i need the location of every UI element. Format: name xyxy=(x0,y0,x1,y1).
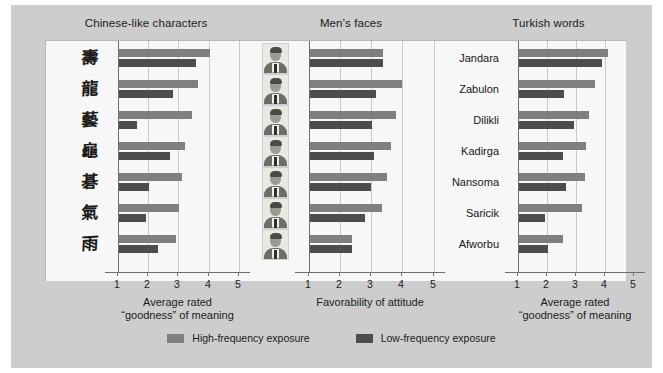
figure-panel: Chinese-like characters Men’s faces Turk… xyxy=(11,5,652,368)
x-tick-label-mens-faces-3: 3 xyxy=(360,278,380,290)
x-tick-label-chinese-characters-2: 2 xyxy=(137,278,157,290)
x-tick-label-mens-faces-4: 4 xyxy=(391,278,411,290)
x-tick-label-turkish-words-4: 4 xyxy=(594,278,614,290)
category-label-mens-faces-face-1 xyxy=(251,44,296,72)
bar-turkish-words-Afworbu-lo xyxy=(519,245,548,253)
turkish-word-label-afworbu: Afworbu xyxy=(459,238,506,250)
turkish-word-label-dilikli: Dilikli xyxy=(473,114,506,126)
bar-chinese-characters-char-2-hi xyxy=(119,80,198,88)
x-tick-turkish-words-1 xyxy=(517,272,518,276)
face-thumbnail-7 xyxy=(262,229,289,260)
category-labels-chinese-characters: 壽龍藝龜碁氣雨 xyxy=(46,41,106,281)
chart-panel-turkish-words: JandaraZabulonDilikliKadirgaNansomaSaric… xyxy=(446,41,646,281)
category-label-chinese-characters-char-4: 龜 xyxy=(46,137,106,165)
x-tick-mens-faces-3 xyxy=(370,272,371,276)
bar-chinese-characters-char-3-lo xyxy=(119,121,137,129)
x-axis-title-turkish-words: Average rated “goodness” of meaning xyxy=(475,296,663,322)
bar-mens-faces-face-5-lo xyxy=(310,183,371,191)
x-tick-chinese-characters-5 xyxy=(238,272,239,276)
legend-swatch-low-frequency xyxy=(356,334,373,343)
x-tick-label-chinese-characters-3: 3 xyxy=(167,278,187,290)
bar-mens-faces-face-6-lo xyxy=(310,214,365,222)
bar-mens-faces-face-4-lo xyxy=(310,152,374,160)
bar-mens-faces-face-2-hi xyxy=(310,80,402,88)
bar-mens-faces-face-3-lo xyxy=(310,121,372,129)
x-tick-turkish-words-2 xyxy=(546,272,547,276)
x-tick-label-turkish-words-1: 1 xyxy=(507,278,527,290)
legend-item-high-frequency: High-frequency exposure xyxy=(167,332,309,344)
category-label-chinese-characters-char-7: 雨 xyxy=(46,230,106,258)
bar-mens-faces-face-2-lo xyxy=(310,90,376,98)
x-tick-label-mens-faces-1: 1 xyxy=(298,278,318,290)
legend-label-low-frequency: Low-frequency exposure xyxy=(381,332,496,344)
bar-mens-faces-face-7-lo xyxy=(310,245,352,253)
category-label-chinese-characters-char-2: 龍 xyxy=(46,75,106,103)
bar-chinese-characters-char-6-hi xyxy=(119,204,179,212)
category-label-turkish-words-saricik: Saricik xyxy=(446,199,506,227)
category-label-chinese-characters-char-1: 壽 xyxy=(46,44,106,72)
bar-turkish-words-Kadirga-hi xyxy=(519,142,586,150)
bar-chinese-characters-char-7-lo xyxy=(119,245,158,253)
category-label-mens-faces-face-6 xyxy=(251,199,296,227)
gridline-turkish-words-3 xyxy=(576,41,577,273)
x-tick-turkish-words-3 xyxy=(575,272,576,276)
panel-titles: Chinese-like characters Men’s faces Turk… xyxy=(11,5,652,40)
category-label-chinese-characters-char-5: 碁 xyxy=(46,168,106,196)
bar-turkish-words-Nansoma-lo xyxy=(519,183,566,191)
x-tick-mens-faces-4 xyxy=(401,272,402,276)
category-label-turkish-words-afworbu: Afworbu xyxy=(446,230,506,258)
panel-title-mens-faces: Men’s faces xyxy=(251,17,451,29)
gridline-mens-faces-4 xyxy=(402,41,403,273)
x-tick-chinese-characters-1 xyxy=(117,272,118,276)
bar-turkish-words-Kadirga-lo xyxy=(519,152,563,160)
bar-turkish-words-Dilikli-hi xyxy=(519,111,589,119)
bar-turkish-words-Zabulon-hi xyxy=(519,80,595,88)
x-tick-mens-faces-1 xyxy=(308,272,309,276)
bar-chinese-characters-char-7-hi xyxy=(119,235,176,243)
face-thumbnail-4 xyxy=(262,136,289,167)
bar-chinese-characters-char-2-lo xyxy=(119,90,173,98)
gridline-chinese-characters-3 xyxy=(178,41,179,273)
category-label-turkish-words-zabulon: Zabulon xyxy=(446,75,506,103)
turkish-word-label-zabulon: Zabulon xyxy=(459,83,506,95)
x-tick-turkish-words-5 xyxy=(633,272,634,276)
x-tick-label-chinese-characters-4: 4 xyxy=(198,278,218,290)
category-label-chinese-characters-char-3: 藝 xyxy=(46,106,106,134)
chinese-character-glyph-6: 氣 xyxy=(81,204,99,222)
category-label-mens-faces-face-4 xyxy=(251,137,296,165)
legend-swatch-high-frequency xyxy=(167,334,184,343)
legend-item-low-frequency: Low-frequency exposure xyxy=(356,332,496,344)
turkish-word-label-nansoma: Nansoma xyxy=(452,176,506,188)
bar-turkish-words-Saricik-hi xyxy=(519,204,582,212)
legend-label-high-frequency: High-frequency exposure xyxy=(192,332,309,344)
chart-legend: High-frequency exposure Low-frequency ex… xyxy=(11,327,652,349)
bar-turkish-words-Jandara-hi xyxy=(519,49,608,57)
x-tick-label-mens-faces-5: 5 xyxy=(423,278,443,290)
chinese-character-glyph-2: 龍 xyxy=(81,80,99,98)
category-label-turkish-words-dilikli: Dilikli xyxy=(446,106,506,134)
x-tick-mens-faces-5 xyxy=(433,272,434,276)
x-axis-title-chinese-characters: Average rated “goodness” of meaning xyxy=(75,296,280,322)
plot-box-turkish-words xyxy=(506,41,646,273)
x-tick-label-turkish-words-5: 5 xyxy=(623,278,643,290)
category-labels-mens-faces xyxy=(251,41,296,281)
x-tick-chinese-characters-4 xyxy=(208,272,209,276)
bar-chinese-characters-char-4-lo xyxy=(119,152,170,160)
plot-box-mens-faces xyxy=(296,41,446,273)
plot-area: 壽龍藝龜碁氣雨JandaraZabulonDilikliKadirgaNanso… xyxy=(45,40,626,281)
bar-turkish-words-Zabulon-lo xyxy=(519,90,564,98)
x-tick-chinese-characters-3 xyxy=(177,272,178,276)
plot-box-chinese-characters xyxy=(106,41,251,273)
chart-panel-chinese-characters: 壽龍藝龜碁氣雨 xyxy=(46,41,251,281)
category-label-mens-faces-face-2 xyxy=(251,75,296,103)
category-label-mens-faces-face-3 xyxy=(251,106,296,134)
bar-mens-faces-face-1-lo xyxy=(310,59,383,67)
x-tick-label-chinese-characters-5: 5 xyxy=(228,278,248,290)
bar-chinese-characters-char-6-lo xyxy=(119,214,146,222)
panel-title-turkish-words: Turkish words xyxy=(451,17,646,29)
category-label-mens-faces-face-5 xyxy=(251,168,296,196)
x-tick-label-turkish-words-3: 3 xyxy=(565,278,585,290)
category-labels-turkish-words: JandaraZabulonDilikliKadirgaNansomaSaric… xyxy=(446,41,506,281)
chinese-character-glyph-1: 壽 xyxy=(81,49,99,67)
bar-mens-faces-face-1-hi xyxy=(310,49,383,57)
